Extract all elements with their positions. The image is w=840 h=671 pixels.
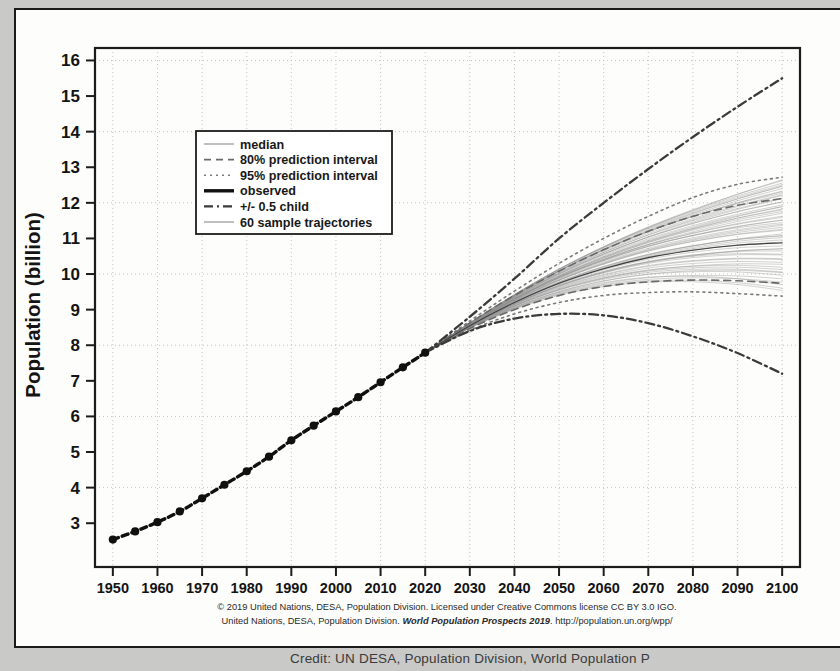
credit-strip: Credit: UN DESA, Population Division, Wo… <box>14 650 840 671</box>
legend-label: 60 sample trajectories <box>240 216 372 230</box>
x-tick-label: 2070 <box>632 580 664 596</box>
caption-line-1: © 2019 United Nations, DESA, Population … <box>217 602 676 612</box>
y-tick-label: 15 <box>61 87 80 106</box>
x-tick-label: 2080 <box>677 580 709 596</box>
y-tick-label: 5 <box>71 443 80 462</box>
x-tick-label: 2040 <box>498 580 530 596</box>
y-tick-label: 13 <box>61 158 80 177</box>
x-tick-label: 1950 <box>97 580 129 596</box>
x-tick-label: 2010 <box>364 580 396 596</box>
x-tick-label: 2000 <box>320 580 352 596</box>
legend-label: +/- 0.5 child <box>240 200 309 214</box>
y-tick-label: 10 <box>61 265 80 284</box>
y-tick-label: 8 <box>71 336 80 355</box>
y-tick-label: 3 <box>71 514 80 533</box>
half-child-variant <box>425 78 782 352</box>
x-tick-label: 1980 <box>231 580 263 596</box>
legend-label: 80% prediction interval <box>240 153 378 167</box>
legend-label: 95% prediction interval <box>240 169 378 183</box>
x-tick-label: 2020 <box>409 580 441 596</box>
grid-lines <box>95 48 800 567</box>
x-tick-label: 1990 <box>275 580 307 596</box>
x-tick-label: 2060 <box>588 580 620 596</box>
y-tick-label: 9 <box>71 301 80 320</box>
population-projection-chart: 3456789101112131415161950196019701980199… <box>0 0 840 671</box>
y-tick-label: 12 <box>61 194 80 213</box>
y-tick-label: 11 <box>62 229 80 248</box>
x-tick-label: 2100 <box>766 580 798 596</box>
x-tick-label: 2050 <box>543 580 575 596</box>
credit-text: Credit: UN DESA, Population Division, Wo… <box>290 651 650 666</box>
caption-line-2: United Nations, DESA, Population Divisio… <box>222 616 673 626</box>
x-tick-label: 1970 <box>186 580 218 596</box>
y-tick-label: 4 <box>71 479 81 498</box>
y-tick-label: 7 <box>71 372 80 391</box>
legend-label: observed <box>240 184 296 198</box>
observed-line <box>109 349 430 544</box>
x-tick-label: 2030 <box>454 580 486 596</box>
y-tick-label: 16 <box>61 51 80 70</box>
chart-legend[interactable]: median80% prediction interval95% predict… <box>196 131 392 234</box>
x-tick-label: 2090 <box>721 580 753 596</box>
y-tick-label: 14 <box>61 123 80 142</box>
y-axis-title: Population (billion) <box>21 212 44 398</box>
figure-caption: © 2019 United Nations, DESA, Population … <box>217 602 676 626</box>
x-tick-label: 1960 <box>141 580 173 596</box>
scanned-page-background: 3456789101112131415161950196019701980199… <box>0 0 840 671</box>
y-tick-label: 6 <box>71 407 80 426</box>
legend-label: median <box>240 138 284 152</box>
